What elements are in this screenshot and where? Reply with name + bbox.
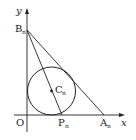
geometry-diagram: y x O B n A n P n C n bbox=[0, 0, 136, 140]
point-sub-A: n bbox=[107, 122, 111, 129]
y-axis-label: y bbox=[15, 5, 22, 16]
x-axis-label: x bbox=[121, 117, 127, 128]
segment-Bn-Pn bbox=[27, 30, 62, 115]
center-point-Cn bbox=[50, 90, 53, 93]
point-sub-B: n bbox=[22, 28, 26, 35]
point-sub-P: n bbox=[65, 122, 69, 129]
segment-Bn-An bbox=[27, 30, 104, 115]
y-axis-arrow-icon bbox=[25, 8, 29, 14]
point-sub-C: n bbox=[62, 89, 66, 96]
point-label-P: P bbox=[58, 117, 65, 128]
origin-label: O bbox=[16, 117, 24, 128]
